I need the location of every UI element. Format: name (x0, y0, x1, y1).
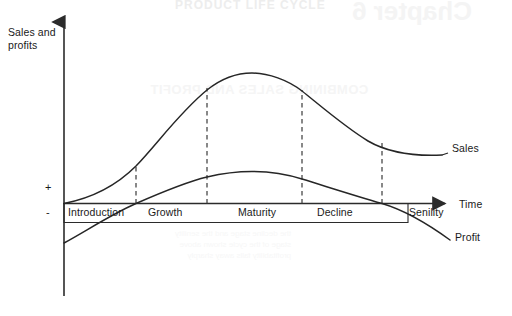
sales-curve (64, 73, 442, 204)
negative-sign-marker: - (46, 206, 50, 219)
stage-label-growth: Growth (148, 206, 182, 219)
y-axis-title-line2: profits (8, 39, 37, 51)
sales-label-leader (442, 153, 448, 155)
stage-label-senility: Senility (409, 206, 444, 219)
y-axis-title: Sales and profits (8, 26, 56, 52)
y-axis-title-line1: Sales and (8, 26, 56, 38)
stage-label-introduction: Introduction (68, 206, 124, 219)
series-label-profit: Profit (455, 231, 480, 244)
x-axis-title: Time (459, 198, 482, 211)
series-label-sales: Sales (452, 142, 479, 155)
plc-chart-canvas (0, 0, 512, 316)
stage-label-maturity: Maturity (238, 206, 276, 219)
product-life-cycle-diagram: PRODUCT LIFE CYCLE Chapter 6 COMBINING S… (0, 0, 512, 316)
stage-label-decline: Decline (317, 206, 353, 219)
positive-sign-marker: + (45, 181, 52, 194)
